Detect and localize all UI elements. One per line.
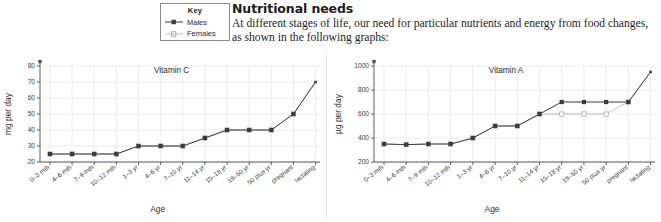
page-title: Nutritional needs [232, 2, 656, 16]
nutritional-needs-figure: Key Males Females Nutritional needs At d… [0, 0, 661, 222]
x-category-label: 1–3 yr [455, 163, 475, 181]
chart-vitamin-a: 20040060080010000–3 mth4–6 mth7–9 mth10–… [330, 52, 661, 222]
y-tick-label: 400 [358, 134, 369, 141]
data-point-males [92, 152, 96, 156]
y-axis-title: mg per day [3, 92, 13, 135]
key-label-females: Females [183, 29, 216, 38]
y-tick-label: 50 [28, 110, 36, 117]
chart-title: Vitamin A [489, 66, 524, 75]
x-category-label: 4–6 mth [50, 163, 73, 183]
data-point-males [136, 144, 140, 148]
y-tick-label: 800 [358, 86, 369, 93]
x-category-label: 15–18 yr [538, 163, 563, 185]
x-category-label: 50 plus yr [246, 163, 273, 187]
x-category-label: 50 plus yr [581, 163, 608, 187]
data-point-males [537, 112, 541, 116]
y-tick-label: 40 [28, 126, 36, 133]
data-point-females [582, 112, 586, 116]
y-axis-title: µg per day [333, 93, 343, 134]
males-marker-icon [165, 18, 183, 26]
chart-key-box: Key Males Females [160, 3, 230, 41]
data-point-males [449, 142, 453, 146]
data-point-males [159, 144, 163, 148]
y-tick-label: 1000 [354, 62, 369, 69]
key-entry-males: Males [165, 18, 225, 27]
chart-title: Vitamin C [154, 66, 189, 75]
data-point-females [604, 112, 608, 116]
x-category-label: lactating [293, 163, 317, 184]
x-category-label: 15–18 yr [204, 163, 229, 185]
data-point-males [291, 112, 295, 116]
x-category-label: 0–3 mth [362, 163, 385, 183]
data-point-males [314, 81, 316, 83]
article-text: Nutritional needs At different stages of… [232, 0, 656, 46]
x-category-label: 4–6 yr [143, 163, 163, 181]
data-point-males [471, 136, 475, 140]
data-point-males [493, 124, 497, 128]
data-point-males [181, 144, 185, 148]
chart-vitamin-c: 203040506070800–3 mth4–6 mth7–9 mth10–12… [0, 52, 326, 222]
y-tick-label: 30 [28, 142, 36, 149]
x-category-label: 10–12 mth [423, 163, 451, 187]
x-category-label: 11–14 yr [182, 163, 207, 185]
data-point-males [560, 100, 564, 104]
key-title: Key [165, 6, 225, 15]
data-point-males [626, 100, 630, 104]
x-category-label: pregnant [605, 163, 630, 185]
data-point-males [582, 100, 586, 104]
x-category-label: 0–3 mth [28, 163, 51, 183]
data-point-males [515, 124, 519, 128]
x-category-label: 4–6 yr [477, 163, 497, 181]
data-point-males [203, 136, 207, 140]
y-tick-label: 70 [28, 78, 36, 85]
key-label-males: Males [183, 18, 207, 27]
y-tick-label: 60 [28, 94, 36, 101]
x-axis-title: Age [150, 204, 165, 214]
x-axis-title: Age [485, 204, 500, 214]
x-category-label: pregnant [270, 163, 295, 185]
data-point-females [560, 112, 564, 116]
data-point-males [247, 128, 251, 132]
x-category-label: 4–6 mth [384, 163, 407, 183]
data-point-males [404, 143, 408, 147]
x-category-label: 11–14 yr [517, 163, 542, 185]
data-point-males [48, 152, 52, 156]
data-point-males [649, 71, 651, 73]
column-divider [326, 50, 327, 218]
x-category-label: 7–10 yr [162, 163, 184, 183]
females-marker-icon [165, 30, 183, 38]
y-tick-label: 20 [28, 158, 36, 165]
data-point-males [604, 100, 608, 104]
y-tick-label: 600 [358, 110, 369, 117]
data-point-males [70, 152, 74, 156]
y-tick-label: 80 [28, 62, 36, 69]
x-category-label: lactating [628, 163, 652, 184]
intro-paragraph: At different stages of life, our need fo… [232, 17, 656, 46]
data-point-males [114, 152, 118, 156]
key-entry-females: Females [165, 29, 225, 38]
data-point-males [382, 142, 386, 146]
data-point-males [225, 128, 229, 132]
y-tick-label: 200 [358, 158, 369, 165]
x-category-label: 1–3 yr [121, 163, 141, 181]
data-point-males [269, 128, 273, 132]
x-category-label: 7–10 yr [497, 163, 519, 183]
data-point-males [426, 142, 430, 146]
